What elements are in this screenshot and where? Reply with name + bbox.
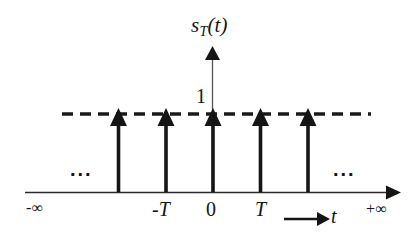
x-tick-negative-T: -T — [152, 199, 170, 219]
x-tick-positive-infinity: +∞ — [366, 201, 387, 217]
amplitude-value-label: 1 — [196, 86, 206, 106]
signal-title-label: sT(t) — [191, 15, 228, 39]
x-axis-arrowhead — [386, 186, 401, 200]
x-direction-arrow-icon — [284, 212, 330, 226]
impulse-train-figure: sT(t) 1 ... ... -∞ -T 0 T +∞ t — [0, 0, 416, 247]
x-tick-zero: 0 — [206, 199, 216, 219]
impulse-arrow — [110, 108, 127, 192]
impulse-arrow — [252, 108, 269, 192]
right-ellipsis-label: ... — [333, 159, 356, 179]
impulse-arrow — [205, 108, 222, 192]
impulse-arrow — [300, 108, 317, 192]
title-argument: (t) — [207, 13, 227, 37]
x-tick-positive-T: T — [255, 199, 266, 219]
x-axis-variable-label: t — [331, 206, 337, 226]
left-ellipsis-label: ... — [70, 159, 93, 179]
impulse-arrow — [158, 108, 175, 192]
x-tick-negative-infinity: -∞ — [26, 200, 44, 216]
y-axis-arrowhead — [205, 46, 220, 60]
